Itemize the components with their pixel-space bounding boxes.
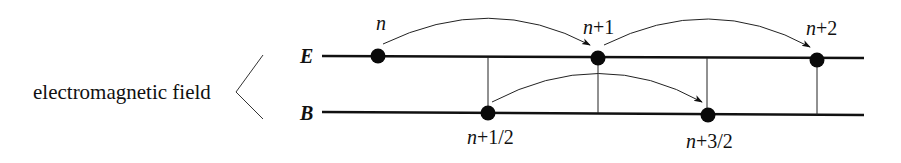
b-node-n12	[481, 106, 496, 121]
e-node-n	[371, 49, 386, 64]
arrow-b-n12-to-n32	[492, 74, 702, 103]
e-node-label-n2: n+2	[806, 17, 837, 39]
b-node-label-n12: n+1/2	[467, 126, 514, 148]
leapfrog-diagram: electromagnetic field E B n n+1 n+2 n+1/…	[0, 0, 901, 163]
field-label-e: E	[299, 45, 313, 67]
bracket	[236, 55, 263, 119]
b-node-n32	[701, 108, 716, 123]
e-node-label-n: n	[376, 12, 386, 34]
e-node-n1	[591, 51, 606, 66]
arrow-e-n1-to-n2	[604, 19, 810, 47]
e-node-n2	[810, 53, 825, 68]
b-node-label-n32: n+3/2	[686, 130, 733, 152]
arrow-e-n-to-n1	[383, 18, 590, 45]
b-field-line	[322, 112, 864, 115]
group-label: electromagnetic field	[33, 80, 211, 104]
e-node-label-n1: n+1	[583, 16, 614, 38]
field-label-b: B	[299, 102, 313, 124]
